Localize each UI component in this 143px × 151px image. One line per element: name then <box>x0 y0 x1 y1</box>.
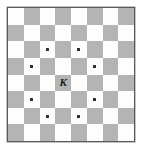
move-marker-dot-icon <box>30 65 33 68</box>
board-square[interactable] <box>24 108 40 125</box>
board-square[interactable] <box>8 108 24 125</box>
board-square[interactable] <box>55 8 71 25</box>
board-square[interactable] <box>40 91 56 108</box>
move-marker-dot-icon <box>30 98 33 101</box>
move-marker-dot-icon <box>46 48 49 51</box>
board-square[interactable] <box>71 25 87 42</box>
board-square[interactable] <box>71 58 87 75</box>
board-square[interactable] <box>8 58 24 75</box>
board-square[interactable] <box>118 41 134 58</box>
move-marker-dot-icon <box>77 115 80 118</box>
board-square[interactable] <box>87 124 103 141</box>
chessboard-frame: K <box>7 7 135 142</box>
board-square[interactable] <box>24 41 40 58</box>
board-square[interactable] <box>40 25 56 42</box>
board-square[interactable] <box>24 91 40 108</box>
board-square[interactable] <box>24 8 40 25</box>
board-square[interactable] <box>118 25 134 42</box>
board-square[interactable] <box>40 41 56 58</box>
move-marker-dot-icon <box>77 48 80 51</box>
board-square[interactable] <box>87 75 103 92</box>
board-square[interactable] <box>103 75 119 92</box>
board-square[interactable] <box>24 25 40 42</box>
board-square[interactable] <box>118 8 134 25</box>
board-square[interactable] <box>40 75 56 92</box>
board-square[interactable] <box>87 25 103 42</box>
move-marker-dot-icon <box>93 98 96 101</box>
move-marker-dot-icon <box>93 65 96 68</box>
board-square[interactable] <box>40 58 56 75</box>
board-square[interactable] <box>71 75 87 92</box>
board-square[interactable] <box>87 8 103 25</box>
move-marker-dot-icon <box>46 115 49 118</box>
board-square[interactable] <box>40 124 56 141</box>
board-square[interactable] <box>55 58 71 75</box>
board-square[interactable] <box>24 124 40 141</box>
board-square[interactable] <box>8 8 24 25</box>
board-square[interactable] <box>118 108 134 125</box>
board-square[interactable] <box>40 108 56 125</box>
board-square[interactable] <box>55 124 71 141</box>
board-square[interactable] <box>24 58 40 75</box>
board-square[interactable] <box>55 91 71 108</box>
board-square[interactable] <box>71 108 87 125</box>
board-square[interactable] <box>71 41 87 58</box>
board-square[interactable] <box>55 25 71 42</box>
board-square[interactable] <box>118 58 134 75</box>
chessboard-grid: K <box>8 8 134 141</box>
board-square[interactable] <box>118 75 134 92</box>
board-square[interactable] <box>103 8 119 25</box>
board-square[interactable] <box>71 124 87 141</box>
board-square[interactable] <box>55 41 71 58</box>
knight-piece-label: K <box>55 75 71 92</box>
board-square[interactable] <box>103 124 119 141</box>
board-square[interactable] <box>24 75 40 92</box>
board-square[interactable] <box>87 108 103 125</box>
board-square[interactable] <box>103 58 119 75</box>
board-square[interactable] <box>118 91 134 108</box>
board-square[interactable] <box>8 75 24 92</box>
board-square[interactable] <box>55 108 71 125</box>
chessboard-figure: K <box>0 0 143 151</box>
board-square[interactable] <box>103 25 119 42</box>
board-square[interactable] <box>103 41 119 58</box>
board-square[interactable] <box>8 91 24 108</box>
board-square[interactable]: K <box>55 75 71 92</box>
board-square[interactable] <box>87 91 103 108</box>
board-square[interactable] <box>87 58 103 75</box>
board-square[interactable] <box>103 91 119 108</box>
board-square[interactable] <box>40 8 56 25</box>
board-square[interactable] <box>71 91 87 108</box>
board-square[interactable] <box>8 25 24 42</box>
board-square[interactable] <box>103 108 119 125</box>
board-square[interactable] <box>87 41 103 58</box>
board-square[interactable] <box>8 124 24 141</box>
board-square[interactable] <box>118 124 134 141</box>
board-square[interactable] <box>71 8 87 25</box>
board-square[interactable] <box>8 41 24 58</box>
